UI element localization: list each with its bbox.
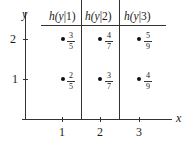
x-axis-label: x bbox=[176, 112, 181, 124]
y-tick-label-2: 2 bbox=[10, 33, 16, 45]
x-tick-1 bbox=[62, 117, 63, 122]
header-prefix: h( bbox=[124, 10, 134, 22]
x-tick-2 bbox=[100, 117, 101, 122]
x-tick-3 bbox=[139, 117, 140, 122]
denominator: 7 bbox=[107, 43, 111, 51]
y-axis bbox=[25, 12, 26, 120]
column-divider-2 bbox=[119, 0, 120, 120]
point-x3-y1 bbox=[137, 77, 141, 81]
numerator: 3 bbox=[107, 72, 111, 80]
denominator: 5 bbox=[69, 83, 73, 91]
header-suffix: ) bbox=[72, 10, 76, 22]
fraction-x1-y1: 25 bbox=[67, 72, 75, 91]
fraction-x1-y2: 35 bbox=[67, 32, 75, 51]
y-axis-label: y bbox=[22, 8, 27, 20]
numerator: 5 bbox=[146, 32, 150, 40]
point-x1-y2 bbox=[61, 37, 65, 41]
denominator: 9 bbox=[146, 83, 150, 91]
numerator: 4 bbox=[146, 72, 150, 80]
x-axis bbox=[22, 119, 172, 120]
fraction-x3-y1: 49 bbox=[144, 72, 152, 91]
header-prefix: h( bbox=[49, 10, 59, 22]
denominator: 5 bbox=[69, 43, 73, 51]
point-x3-y2 bbox=[137, 37, 141, 41]
numerator: 4 bbox=[107, 32, 111, 40]
x-tick-label-3: 3 bbox=[136, 126, 142, 138]
point-x2-y2 bbox=[98, 37, 102, 41]
x-tick-label-1: 1 bbox=[59, 126, 65, 138]
column-divider-1 bbox=[81, 0, 82, 120]
y-tick-label-1: 1 bbox=[12, 73, 18, 85]
denominator: 9 bbox=[146, 43, 150, 51]
denominator: 7 bbox=[107, 83, 111, 91]
point-x2-y1 bbox=[98, 77, 102, 81]
numerator: 3 bbox=[69, 32, 73, 40]
header-suffix: ) bbox=[147, 10, 151, 22]
numerator: 2 bbox=[69, 72, 73, 80]
header-prefix: h( bbox=[85, 10, 95, 22]
fraction-x2-y2: 47 bbox=[105, 32, 113, 51]
fraction-x3-y2: 59 bbox=[144, 32, 152, 51]
y-tick-1 bbox=[23, 79, 28, 80]
point-x1-y1 bbox=[61, 77, 65, 81]
x-tick-label-2: 2 bbox=[97, 126, 103, 138]
header-rule bbox=[41, 25, 166, 26]
header-h-y-given-3: h(y|3) bbox=[124, 10, 151, 22]
fraction-x2-y1: 37 bbox=[105, 72, 113, 91]
header-suffix: ) bbox=[108, 10, 112, 22]
y-tick-2 bbox=[23, 39, 28, 40]
header-h-y-given-1: h(y|1) bbox=[49, 10, 76, 22]
header-h-y-given-2: h(y|2) bbox=[85, 10, 112, 22]
